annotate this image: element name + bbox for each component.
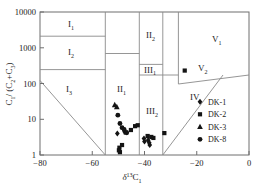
legend-label: DK-1 [208, 98, 226, 107]
legend-label: DK-3 [208, 123, 226, 132]
data-point [146, 134, 150, 138]
y-axis-title-text: C1/ (C2+C3) [4, 63, 16, 106]
field-label-II1: II1 [117, 84, 126, 96]
data-point [115, 130, 120, 136]
x-ticklabel: −40 [138, 158, 151, 168]
x-ticklabel: −60 [86, 158, 99, 168]
x-ticklabel: 0 [247, 158, 251, 168]
field-label-III2: III2 [146, 106, 158, 118]
x-axis-ticks [40, 151, 249, 155]
data-point [151, 136, 155, 140]
field-label-III1: III1 [144, 65, 156, 77]
data-point [162, 131, 166, 135]
y-axis-ticks [40, 12, 44, 155]
data-point [183, 68, 187, 72]
field-labels: I1 I2 I3 II1 II2 III1 III2 IV V1 V2 [66, 19, 222, 118]
data-point [124, 130, 129, 135]
series-DK-3 [112, 102, 120, 109]
legend-label: DK-8 [208, 135, 226, 144]
data-point [115, 113, 120, 118]
legend-label: DK-2 [208, 110, 226, 119]
y-ticklabel: 10 [28, 114, 37, 124]
y-ticklabel: 100 [23, 79, 36, 89]
legend-marker-square [198, 112, 202, 116]
y-ticklabel: 10000 [15, 7, 36, 17]
data-point [117, 148, 121, 152]
y-ticklabel: 1000 [19, 43, 36, 53]
chart-legend: DK-1DK-2DK-3DK-8 [197, 98, 226, 145]
field-label-IV: IV [190, 92, 200, 102]
x-ticklabel: −20 [190, 158, 203, 168]
data-point [136, 123, 140, 127]
gas-genesis-chart: 1 10 100 1000 10000 −80 −60 −40 −20 0 δ1… [0, 0, 257, 184]
x-axis-title: δ13C1 [122, 172, 141, 184]
data-point [129, 128, 133, 132]
field-label-I3: I3 [66, 84, 72, 96]
x-axis-ticklabels: −80 −60 −40 −20 0 [33, 158, 251, 168]
x-axis-title-text: δ13C1 [122, 172, 141, 184]
legend-item-DK-2[interactable]: DK-2 [198, 110, 226, 119]
legend-item-DK-1[interactable]: DK-1 [198, 98, 227, 107]
x-ticklabel: −80 [33, 158, 46, 168]
y-axis-ticklabels: 1 10 100 1000 10000 [15, 7, 36, 160]
legend-marker-triangle [197, 124, 203, 129]
field-label-V2: V2 [198, 63, 208, 75]
legend-marker-circle [198, 137, 203, 142]
legend-item-DK-3[interactable]: DK-3 [197, 123, 226, 132]
x-title-sub: 1 [139, 178, 142, 184]
data-point [118, 121, 123, 126]
legend-item-DK-8[interactable]: DK-8 [198, 135, 227, 144]
field-label-V1: V1 [212, 34, 222, 46]
chart-svg: 1 10 100 1000 10000 −80 −60 −40 −20 0 δ1… [0, 0, 257, 184]
field-label-II2: II2 [146, 30, 155, 42]
field-label-I2: I2 [68, 47, 74, 59]
field-label-I1: I1 [68, 19, 74, 31]
data-point [120, 143, 124, 147]
y-axis-title: C1/ (C2+C3) [4, 63, 16, 106]
